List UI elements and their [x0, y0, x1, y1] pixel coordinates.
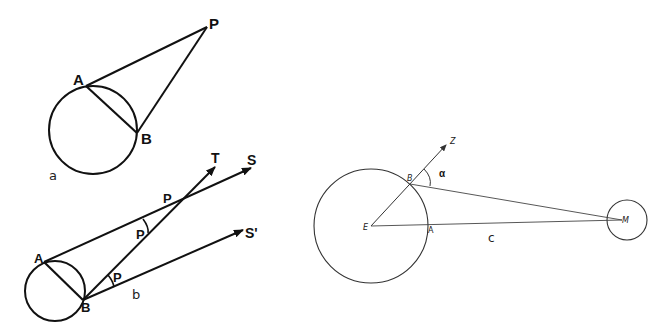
- panel-a-label-b: B: [141, 130, 152, 147]
- panel-b-ray-as: [44, 168, 251, 262]
- panel-a-circle: [49, 86, 137, 174]
- panel-b-circle: [25, 261, 85, 321]
- parallax-diagram: A B P a A B T S S' P P P b E A B Z M: [0, 0, 662, 333]
- label-e: E: [363, 223, 369, 232]
- panel-b: A B T S S' P P P b: [25, 150, 258, 321]
- label-m: M: [622, 216, 629, 225]
- ray-e-z: [371, 145, 446, 226]
- panel-b-label-s-prime: S': [245, 225, 258, 241]
- panel-a-chord-ab: [86, 86, 137, 133]
- panel-c: E A B Z M α c: [314, 137, 647, 283]
- panel-b-label-b: B: [81, 300, 90, 315]
- panel-b-label-p-mid: P: [136, 227, 145, 242]
- line-b-m: [410, 184, 622, 220]
- panel-a-label-p: P: [209, 15, 219, 32]
- label-a-c: A: [428, 226, 434, 235]
- panel-b-caption: b: [132, 287, 140, 302]
- label-z: Z: [449, 137, 456, 146]
- panel-b-ray-bs-prime: [83, 230, 243, 300]
- panel-b-label-t: T: [211, 150, 220, 166]
- panel-b-label-s: S: [247, 152, 256, 168]
- panel-a-line-bp: [137, 27, 207, 133]
- angle-alpha-arc: [424, 169, 430, 186]
- panel-c-caption: c: [488, 231, 495, 245]
- line-e-m: [371, 220, 622, 226]
- panel-b-label-p-lower: P: [113, 270, 122, 285]
- label-b-c: B: [407, 174, 413, 183]
- panel-b-ray-bt: [83, 167, 215, 300]
- panel-a-line-ap: [86, 27, 207, 86]
- panel-a-caption: a: [49, 168, 57, 183]
- label-alpha: α: [439, 168, 446, 179]
- panel-a-label-a: A: [73, 71, 84, 88]
- panel-a: A B P a: [49, 15, 219, 183]
- panel-b-chord-ab: [44, 262, 83, 300]
- panel-b-label-p-upper: P: [163, 191, 172, 206]
- panel-b-label-a: A: [34, 251, 44, 266]
